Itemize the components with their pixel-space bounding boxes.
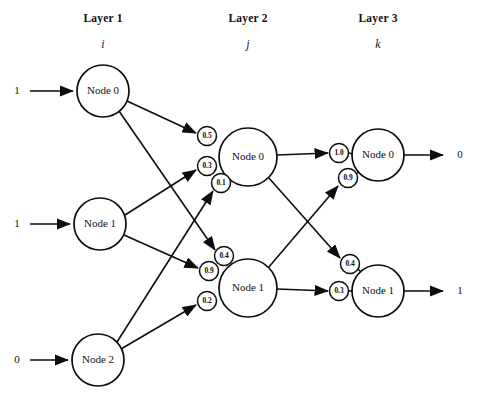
layer-subscript-1: i	[101, 37, 104, 51]
weight-value-w-03b: 0.3	[334, 286, 344, 295]
nodes-group: Node 0Node 1Node 2Node 0Node 1Node 0Node…	[72, 65, 404, 386]
layer-subscript-3: k	[375, 37, 381, 51]
weight-value-w-02: 0.2	[202, 296, 212, 305]
weight-value-w-03: 0.3	[202, 161, 212, 170]
weight-value-w-10: 1.0	[334, 148, 344, 157]
weight-value-w-05: 0.5	[202, 131, 212, 140]
layer-title-2: Layer 2	[228, 12, 267, 25]
connection-edge	[117, 191, 213, 342]
neural-network-diagram: Layer 1iLayer 2jLayer 3k 11001 Node 0Nod…	[0, 0, 478, 400]
diagram-svg: Layer 1iLayer 2jLayer 3k 11001 Node 0Nod…	[0, 0, 478, 400]
weight-value-w-04b: 0.4	[345, 259, 355, 268]
weight-value-w-04a: 0.4	[219, 251, 229, 260]
weight-value-w-09a: 0.9	[204, 266, 214, 275]
connection-edge	[127, 101, 196, 133]
connection-edge	[277, 153, 328, 155]
node-label-l1n2: Node 2	[82, 353, 114, 365]
input-value-1: 1	[14, 217, 20, 229]
node-label-l2n0: Node 0	[232, 150, 265, 162]
node-label-l1n0: Node 0	[87, 84, 120, 96]
node-label-l3n1: Node 1	[362, 284, 394, 296]
node-label-l3n0: Node 0	[362, 148, 395, 160]
connection-edge	[268, 186, 338, 268]
input-value-2: 0	[14, 353, 20, 365]
output-value-0: 0	[457, 148, 463, 160]
input-value-0: 1	[14, 84, 20, 96]
output-value-1: 1	[457, 284, 463, 296]
node-label-l2n1: Node 1	[232, 281, 264, 293]
connection-edge	[268, 177, 340, 258]
layer-titles-group: Layer 1iLayer 2jLayer 3k	[83, 12, 397, 51]
connection-edge	[277, 289, 328, 291]
connection-edge	[121, 305, 196, 349]
weight-value-w-09b: 0.9	[343, 173, 353, 182]
layer-title-3: Layer 3	[358, 12, 397, 25]
weight-value-w-01: 0.1	[216, 178, 226, 187]
layer-title-1: Layer 1	[83, 12, 122, 25]
node-label-l1n1: Node 1	[84, 217, 116, 229]
layer-subscript-2: j	[244, 37, 250, 51]
connection-edge	[124, 235, 198, 268]
